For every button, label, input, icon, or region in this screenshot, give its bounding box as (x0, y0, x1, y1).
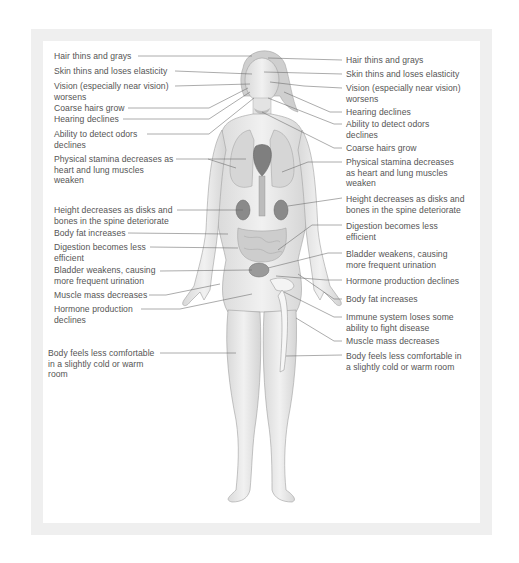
spine-shape (259, 176, 265, 216)
left-label-odors: Ability to detect odors declines (54, 129, 137, 150)
right-label-muscle-mass: Muscle mass decreases (346, 336, 439, 347)
left-label-coarse-hairs: Coarse hairs grow (54, 103, 125, 114)
left-label-digestion: Digestion becomes less efficient (54, 242, 146, 263)
right-label-bladder: Bladder weakens, causing more frequent u… (346, 249, 448, 270)
left-label-stamina: Physical stamina decreases as heart and … (54, 154, 173, 186)
right-label-odors: Ability to detect odors declines (346, 119, 429, 140)
right-kidney-shape (274, 200, 288, 220)
intestines-shape (238, 228, 287, 262)
right-label-hearing: Hearing declines (346, 107, 411, 118)
left-label-skin: Skin thins and loses elasticity (54, 66, 167, 77)
left-label-height: Height decreases as disks and bones in t… (54, 205, 173, 226)
left-leg-shape (227, 310, 261, 502)
right-label-height: Height decreases as disks and bones in t… (346, 194, 465, 215)
right-label-body-fat: Body fat increases (346, 294, 418, 305)
left-label-muscle-mass: Muscle mass decreases (54, 290, 147, 301)
right-label-skin: Skin thins and loses elasticity (346, 69, 459, 80)
head-shape (245, 58, 279, 102)
left-label-bladder: Bladder weakens, causing more frequent u… (54, 265, 156, 286)
left-label-hair: Hair thins and grays (54, 51, 131, 62)
right-label-immune: Immune system loses some ability to figh… (346, 312, 454, 333)
right-label-stamina: Physical stamina decreases as heart and … (346, 157, 454, 189)
left-label-vision: Vision (especially near vision) worsens (54, 81, 169, 102)
right-label-hormone: Hormone production declines (346, 276, 459, 287)
right-label-coarse-hairs: Coarse hairs grow (346, 143, 417, 154)
left-label-body-fat: Body fat increases (54, 228, 126, 239)
right-label-digestion: Digestion becomes less efficient (346, 221, 438, 242)
left-label-hearing: Hearing declines (54, 114, 119, 125)
right-label-vision: Vision (especially near vision) worsens (346, 83, 461, 104)
right-label-temperature: Body feels less comfortable in a slightl… (346, 351, 462, 372)
left-label-hormone: Hormone production declines (54, 304, 133, 325)
right-leg-shape (263, 310, 296, 502)
left-label-temperature: Body feels less comfortable in a slightl… (48, 348, 154, 380)
right-label-hair: Hair thins and grays (346, 55, 423, 66)
